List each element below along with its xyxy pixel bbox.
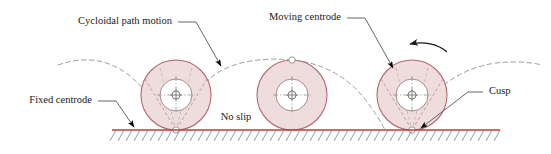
middle-circle: [257, 57, 327, 130]
right-circle: [377, 60, 447, 133]
fixed-centrode-ground: [110, 130, 500, 141]
left-circle: [141, 60, 211, 133]
leader-fixed-centrode: [98, 101, 134, 127]
middle-apex-point: [289, 57, 295, 63]
label-moving-centrode: Moving centrode: [269, 11, 341, 22]
figure-canvas: Cycloidal path motion Moving centrode Fi…: [0, 0, 551, 154]
leader-moving-centrode: [347, 18, 393, 68]
label-fixed-centrode: Fixed centrode: [29, 94, 92, 105]
label-cycloidal-path-motion: Cycloidal path motion: [78, 15, 173, 26]
ground-hatching: [110, 130, 500, 141]
label-cusp: Cusp: [489, 85, 511, 96]
label-no-slip: No slip: [221, 111, 252, 122]
leader-cycloidal-path: [178, 22, 221, 66]
rotation-direction-arrow: [410, 43, 447, 52]
